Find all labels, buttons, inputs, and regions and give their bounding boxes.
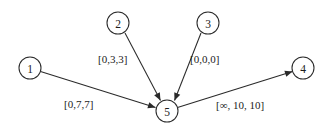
edge-2-to-5 bbox=[125, 33, 161, 101]
node-label-2: 2 bbox=[115, 18, 121, 30]
edges-layer bbox=[41, 33, 293, 108]
graph-diagram: 12345 [0,7,7][0,3,3][0,0,0][∞, 10, 10] bbox=[0, 0, 327, 131]
edge-label-1-5: [0,7,7] bbox=[64, 98, 93, 110]
arrowhead-2-to-5 bbox=[154, 92, 163, 102]
node-5[interactable]: 5 bbox=[156, 100, 178, 122]
edge-label-3-5: [0,0,0] bbox=[190, 53, 219, 65]
node-label-5: 5 bbox=[164, 106, 170, 118]
edge-1-to-5 bbox=[41, 72, 156, 108]
node-2[interactable]: 2 bbox=[107, 12, 129, 34]
node-4[interactable]: 4 bbox=[292, 57, 314, 79]
graph-canvas: 12345 [0,7,7][0,3,3][0,0,0][∞, 10, 10] bbox=[0, 0, 327, 131]
node-1[interactable]: 1 bbox=[19, 57, 41, 79]
edge-label-2-5: [0,3,3] bbox=[98, 53, 127, 65]
edge-3-to-5 bbox=[175, 33, 202, 101]
node-label-3: 3 bbox=[205, 18, 211, 30]
arrowhead-3-to-5 bbox=[172, 92, 181, 101]
node-label-1: 1 bbox=[27, 63, 33, 75]
node-3[interactable]: 3 bbox=[197, 12, 219, 34]
edge-label-5-4: [∞, 10, 10] bbox=[216, 99, 264, 111]
node-label-4: 4 bbox=[300, 63, 306, 75]
arrowhead-1-to-5 bbox=[147, 102, 156, 110]
